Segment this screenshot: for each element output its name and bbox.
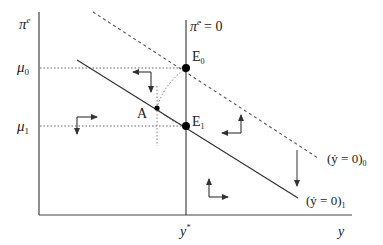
y-dot-zero-new-label: (ẏ = 0)1 xyxy=(306,193,346,210)
x-axis-label: y xyxy=(336,224,345,239)
point-e1-label: E1 xyxy=(192,114,205,131)
pi-dot-zero-label: π̇e = 0 xyxy=(190,18,222,34)
adjustment-path xyxy=(157,68,186,126)
y-dot-zero-initial-label: (ẏ = 0)0 xyxy=(327,151,367,168)
point-e1 xyxy=(182,122,190,130)
point-a-label: A xyxy=(137,106,148,121)
point-a xyxy=(154,105,159,110)
point-e0 xyxy=(182,64,190,72)
mu1-label: μ1 xyxy=(16,118,29,136)
phase-diagram: πe y y* μ0 μ1 π̇e = 0 (ẏ = 0)0 (ẏ = 0)1 … xyxy=(0,0,383,245)
direction-arrows-upper-left xyxy=(133,72,151,92)
direction-arrows-upper-right xyxy=(222,115,241,133)
y-axis-label: πe xyxy=(19,15,31,32)
mu0-label: μ0 xyxy=(16,59,30,77)
direction-arrows-lower-right xyxy=(209,179,228,197)
point-e0-label: E0 xyxy=(192,49,205,66)
y-star-label: y* xyxy=(178,223,190,239)
